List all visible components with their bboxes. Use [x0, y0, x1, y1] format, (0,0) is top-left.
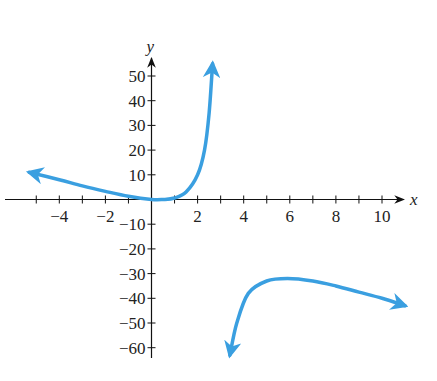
- y-tick-label: 50: [129, 67, 146, 86]
- y-tick-label: 30: [129, 116, 146, 135]
- x-tick-label: 4: [239, 207, 248, 226]
- curve-left-branch: [29, 64, 212, 200]
- y-tick-label: 20: [129, 141, 146, 160]
- x-axis-label: x: [409, 190, 418, 209]
- function-curves: [29, 64, 405, 355]
- plot-area: xy−4−22468105040302010−10−20−30−40−50−60: [0, 0, 437, 381]
- y-tick-label: −10: [119, 215, 146, 234]
- curve-right-branch: [230, 279, 405, 356]
- y-tick-label: 10: [129, 166, 146, 185]
- y-axis-label: y: [145, 37, 155, 56]
- y-tick-label: 40: [129, 92, 146, 111]
- chart-figure: xy−4−22468105040302010−10−20−30−40−50−60: [0, 0, 437, 381]
- y-tick-label: −30: [119, 265, 146, 284]
- x-tick-label: 10: [374, 207, 391, 226]
- y-tick-label: −40: [119, 289, 146, 308]
- y-tick-label: −60: [119, 339, 146, 358]
- x-tick-label: 6: [286, 207, 295, 226]
- x-tick-label: 2: [193, 207, 202, 226]
- x-tick-label: −4: [50, 207, 69, 226]
- y-tick-label: −20: [119, 240, 146, 259]
- x-tick-label: 8: [332, 207, 341, 226]
- y-tick-label: −50: [119, 314, 146, 333]
- x-tick-label: −2: [96, 207, 114, 226]
